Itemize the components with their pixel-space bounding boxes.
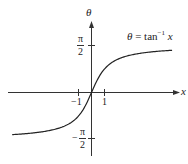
x-axis-arrow-icon [173,90,180,95]
equation-inverse-exponent: −1 [158,29,165,37]
pi-numerator-neg: π [79,127,86,139]
theta-tick-label-neg-pi-over-2: π 2 [79,127,86,150]
two-denominator-neg: 2 [79,139,86,150]
pi-numerator: π [77,34,84,46]
theta-tick-label-pi-over-2: π 2 [77,34,84,57]
x-axis-label: x [181,86,186,97]
theta-axis-label: θ [86,7,91,18]
theta-axis-arrow-icon [89,21,94,28]
x-tick-label-neg1: −1 [71,97,82,107]
arctan-plot [0,0,188,164]
equation-label: θ = tan−1 x [127,30,173,42]
equation-x: x [165,30,173,42]
two-denominator: 2 [77,46,84,57]
equation-tan: = tan [132,30,157,42]
x-tick-label-pos1: 1 [102,97,107,107]
neg-sign: − [72,133,78,143]
